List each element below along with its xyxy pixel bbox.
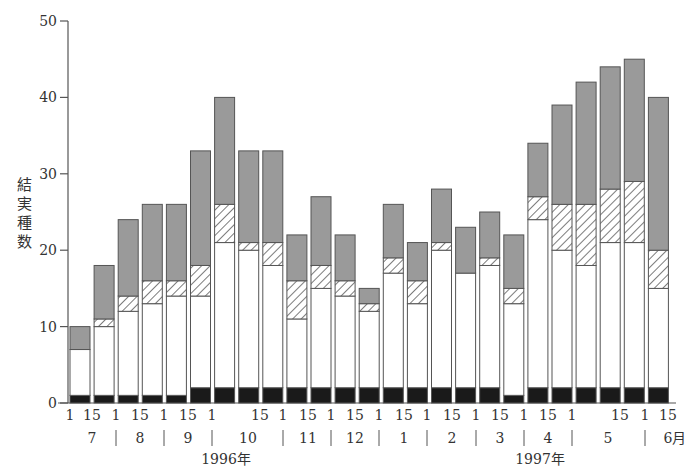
bar xyxy=(456,227,476,403)
x-tick-label: 15 xyxy=(346,407,364,423)
bar-segment-black xyxy=(142,395,162,403)
bar-segment-black xyxy=(576,388,596,403)
bar-segment-gray xyxy=(624,59,644,181)
bar-segment-gray xyxy=(648,97,668,250)
bar xyxy=(528,143,548,403)
bar-segment-black xyxy=(239,388,259,403)
bar-segment-white xyxy=(335,296,355,388)
bar-segment-gray xyxy=(359,288,379,303)
x-tick-label: 1 xyxy=(327,407,336,423)
bar-segment-gray xyxy=(166,204,186,280)
bar-segment-white xyxy=(94,327,114,396)
bar-segment-black xyxy=(191,388,211,403)
bar xyxy=(407,243,427,403)
bar xyxy=(118,220,138,403)
bar-segment-white xyxy=(215,243,235,388)
bar-segment-hatched xyxy=(311,265,331,288)
month-label: 9 xyxy=(184,430,193,446)
bar-segment-white xyxy=(70,350,90,396)
month-label: 10 xyxy=(239,430,257,446)
bar-segment-hatched xyxy=(94,319,114,327)
bar-segment-black xyxy=(432,388,452,403)
bar-segment-white xyxy=(287,319,307,388)
bar-segment-hatched xyxy=(383,258,403,273)
bar-segment-white xyxy=(528,220,548,388)
bar-segment-white xyxy=(263,265,283,387)
bars xyxy=(70,59,668,403)
bar-segment-white xyxy=(624,243,644,388)
month-label: 12 xyxy=(346,430,364,446)
bar-segment-white xyxy=(456,273,476,388)
bar-segment-gray xyxy=(600,67,620,189)
bar-segment-black xyxy=(359,388,379,403)
bar xyxy=(600,67,620,403)
month-label: 3 xyxy=(496,430,505,446)
x-tick-label: 1 xyxy=(520,407,529,423)
month-label: 4 xyxy=(544,430,553,446)
bar-segment-gray xyxy=(239,151,259,243)
month-label: 8 xyxy=(136,430,145,446)
bar xyxy=(552,105,572,403)
bar-segment-black xyxy=(456,388,476,403)
month-label: 11 xyxy=(299,430,317,446)
bar xyxy=(287,235,307,403)
bar-segment-gray xyxy=(215,97,235,204)
bar-segment-hatched xyxy=(600,189,620,242)
x-tick-label: 1 xyxy=(160,407,169,423)
x-tick-label: 15 xyxy=(83,407,101,423)
y-tick-label: 30 xyxy=(39,166,57,182)
bar-segment-gray xyxy=(432,189,452,242)
y-tick-label: 10 xyxy=(39,319,57,335)
bar-segment-black xyxy=(383,388,403,403)
bar-segment-black xyxy=(552,388,572,403)
year-label: 1997年 xyxy=(515,451,565,467)
bar-segment-white xyxy=(407,304,427,388)
bar-segment-hatched xyxy=(504,288,524,303)
bar-segment-gray xyxy=(311,197,331,266)
bar-segment-black xyxy=(287,388,307,403)
bar-segment-black xyxy=(504,395,524,403)
x-tick-label: 15 xyxy=(299,407,317,423)
bar-segment-white xyxy=(552,250,572,388)
bar-segment-hatched xyxy=(166,281,186,296)
x-tick-label: 15 xyxy=(131,407,149,423)
bar-segment-gray xyxy=(94,265,114,318)
x-tick-label: 15 xyxy=(659,407,677,423)
bar-segment-hatched xyxy=(239,243,259,251)
bar-segment-white xyxy=(166,296,186,395)
bar-segment-gray xyxy=(480,212,500,258)
bar-segment-hatched xyxy=(528,197,548,220)
y-axis-label: 結実種数 xyxy=(14,176,34,252)
y-tick-label: 20 xyxy=(39,242,57,258)
bar-segment-white xyxy=(504,304,524,396)
x-tick-label: 1 xyxy=(208,407,217,423)
bar-segment-gray xyxy=(335,235,355,281)
x-tick-label: 15 xyxy=(443,407,461,423)
bar xyxy=(480,212,500,403)
bar-segment-hatched xyxy=(648,250,668,288)
bar-segment-gray xyxy=(263,151,283,243)
bar-segment-hatched xyxy=(552,204,572,250)
bar xyxy=(383,204,403,403)
bar-segment-gray xyxy=(118,220,138,296)
bar-segment-black xyxy=(624,388,644,403)
bar-segment-white xyxy=(600,243,620,388)
x-tick-label: 15 xyxy=(395,407,413,423)
bar xyxy=(432,189,452,403)
bar xyxy=(624,59,644,403)
bar xyxy=(166,204,186,403)
y-tick-label: 40 xyxy=(39,89,57,105)
bar xyxy=(504,235,524,403)
bar-segment-black xyxy=(94,395,114,403)
bar-segment-hatched xyxy=(142,281,162,304)
x-tick-label: 1 xyxy=(66,407,75,423)
bar-segment-black xyxy=(70,395,90,403)
bar-segment-black xyxy=(335,388,355,403)
month-label: 6月 xyxy=(664,430,687,446)
bar xyxy=(215,97,235,403)
x-tick-label: 15 xyxy=(611,407,629,423)
bar-segment-hatched xyxy=(432,243,452,251)
bar xyxy=(94,265,114,403)
month-label: 7 xyxy=(88,430,97,446)
bar-segment-gray xyxy=(407,243,427,281)
